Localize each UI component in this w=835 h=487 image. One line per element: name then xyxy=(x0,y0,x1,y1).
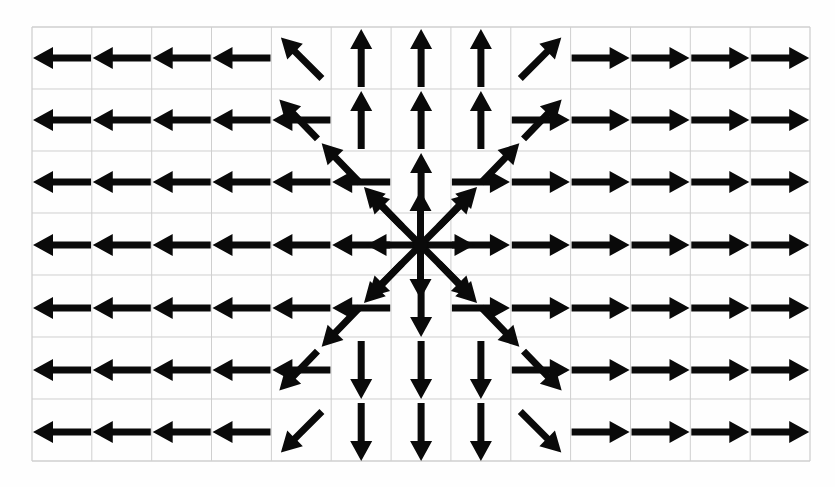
vector-field-figure xyxy=(0,0,835,487)
source-point xyxy=(414,238,428,252)
vector-field-canvas xyxy=(0,0,835,487)
